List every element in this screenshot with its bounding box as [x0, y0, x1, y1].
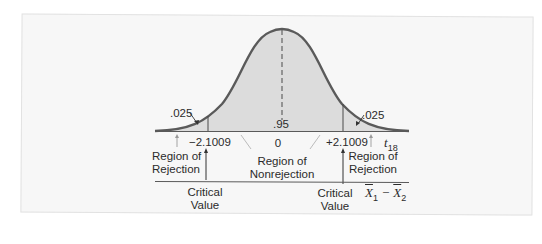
- critical-value-right: +2.1009: [326, 136, 368, 149]
- right-region-line2: Rejection: [348, 163, 397, 176]
- right-critical-line2: Value: [317, 200, 352, 213]
- x2-symbol: X: [393, 185, 401, 200]
- nonrejection-marker-left: [241, 135, 251, 149]
- left-rejection-region-label: Region of Rejection: [152, 150, 201, 176]
- t-distribution-plot: [0, 0, 542, 244]
- critical-value-left: −2.1009: [189, 136, 231, 149]
- x1-symbol: X: [365, 185, 373, 200]
- sample-axis-line: [155, 182, 409, 183]
- center-area-label: .95: [273, 118, 289, 131]
- center-region-line1: Region of: [250, 155, 315, 168]
- center-region-line2: Nonrejection: [250, 168, 315, 181]
- left-critical-line2: Value: [187, 199, 222, 212]
- center-value: 0: [275, 137, 281, 150]
- left-critical-line1: Critical: [187, 186, 222, 199]
- nonrejection-marker-right: [310, 135, 320, 149]
- right-region-line1: Region of: [348, 150, 397, 163]
- rejection-arrow-right-head: [369, 134, 373, 138]
- right-rejection-region-label: Region of Rejection: [348, 150, 397, 176]
- left-region-line2: Rejection: [152, 163, 201, 176]
- x1-subscript: 1: [373, 193, 378, 203]
- tail-area-left-label: .025: [170, 107, 192, 120]
- tail-area-right-label: .025: [362, 109, 384, 122]
- right-critical-value-label: Critical Value: [317, 187, 352, 213]
- left-critical-value-label: Critical Value: [187, 186, 222, 212]
- rejection-arrow-left-head: [175, 134, 179, 138]
- x2-subscript: 2: [401, 193, 406, 203]
- nonrejection-region-label: Region of Nonrejection: [250, 155, 315, 181]
- mean-difference-axis-label: X1 − X2: [365, 186, 406, 205]
- left-region-line1: Region of: [152, 150, 201, 163]
- right-critical-line1: Critical: [317, 187, 352, 200]
- minus-symbol: −: [381, 185, 390, 200]
